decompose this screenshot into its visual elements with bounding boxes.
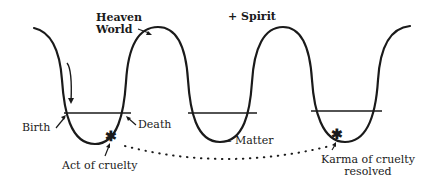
act-of-cruelty-label: Act of cruelty: [62, 160, 137, 172]
act-of-cruelty-marker-icon: ✱: [105, 130, 117, 142]
spirit-matter-wave: [34, 26, 410, 144]
karma-resolved-label-line2: resolved: [318, 166, 418, 178]
karma-cycle-diagram: ✱ ✱ Heaven World + Spirit Birth Death – …: [0, 0, 434, 192]
spirit-label: + Spirit: [228, 11, 276, 23]
karma-resolved-label: Karma of cruelty resolved: [318, 154, 418, 178]
birth-label: Birth: [22, 122, 50, 134]
matter-label: – Matter: [226, 135, 273, 147]
death-label: Death: [138, 119, 171, 131]
karma-resolved-marker-icon: ✱: [331, 128, 343, 140]
karmic-connection-dotted-line: [125, 146, 330, 159]
descent-arrow-icon: [67, 63, 71, 102]
heaven-world-label-line2: World: [96, 24, 142, 36]
heaven-world-label: Heaven World: [96, 12, 142, 36]
